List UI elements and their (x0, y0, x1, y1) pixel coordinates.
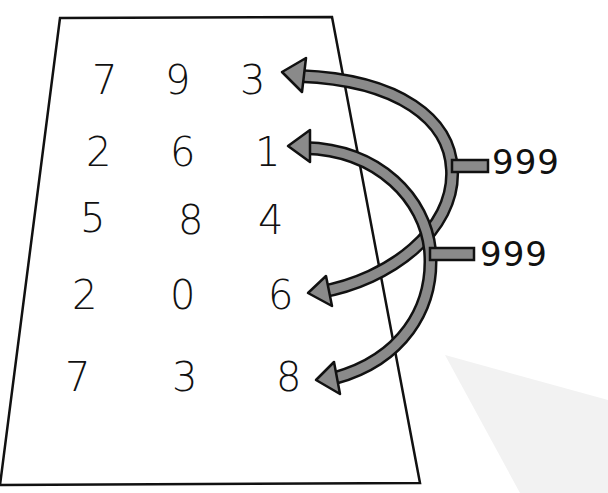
digit-r3-c2: 8 (178, 200, 203, 240)
digit-r2-c2: 6 (170, 132, 195, 172)
digit-r4-c1: 2 (72, 275, 97, 315)
digit-r2-c3: 1 (255, 132, 280, 172)
digit-r1-c3: 3 (240, 60, 265, 100)
digit-r2-c1: 2 (86, 132, 111, 172)
shadow (445, 355, 608, 493)
digit-r4-c3: 6 (268, 275, 293, 315)
digit-r1-c2: 9 (165, 60, 190, 100)
digit-r4-c2: 0 (170, 275, 195, 315)
label-999-top: 999 (492, 145, 560, 179)
digit-r5-c2: 3 (172, 357, 197, 397)
label-999-bottom: 999 (480, 237, 548, 271)
digit-r3-c1: 5 (80, 198, 105, 238)
digit-r5-c3: 8 (276, 357, 301, 397)
digit-r3-c3: 4 (258, 200, 283, 240)
digit-r5-c1: 7 (65, 357, 90, 397)
digit-r1-c1: 7 (92, 60, 117, 100)
